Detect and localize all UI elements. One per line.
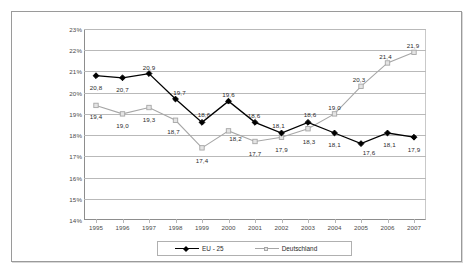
data-point-label: 19,6 bbox=[222, 91, 234, 98]
data-point-marker bbox=[359, 84, 363, 88]
data-point-label: 19,0 bbox=[116, 122, 128, 129]
data-point-label: 20,7 bbox=[116, 86, 128, 93]
data-point-label: 17,9 bbox=[408, 146, 420, 153]
legend-label: Deutschland bbox=[282, 245, 318, 252]
y-axis-tick-label: 23% bbox=[40, 26, 82, 33]
data-point-label: 18,7 bbox=[167, 128, 179, 135]
data-point-label: 19,3 bbox=[143, 116, 155, 123]
y-axis-tick-label: 20% bbox=[40, 89, 82, 96]
data-point-label: 18,1 bbox=[328, 141, 340, 148]
data-point-label: 18,1 bbox=[272, 122, 284, 129]
y-axis-tick-label: 16% bbox=[40, 174, 82, 181]
y-axis-tick-label: 17% bbox=[40, 153, 82, 160]
y-axis-tick-label: 14% bbox=[40, 217, 82, 224]
series-lines bbox=[84, 29, 426, 220]
data-point-marker bbox=[94, 103, 98, 107]
data-point-marker bbox=[332, 112, 336, 116]
data-point-label: 20,3 bbox=[353, 76, 365, 83]
data-point-marker bbox=[411, 134, 417, 140]
data-point-marker bbox=[385, 61, 389, 65]
data-point-label: 18,6 bbox=[248, 112, 260, 119]
data-point-label: 19,4 bbox=[90, 113, 102, 120]
y-axis-tick-label: 18% bbox=[40, 132, 82, 139]
data-point-label: 19,7 bbox=[173, 89, 185, 96]
legend-square-marker-icon bbox=[255, 244, 279, 253]
chart-legend: EU - 25Deutschland bbox=[157, 241, 352, 256]
data-point-marker bbox=[93, 73, 99, 79]
data-point-label: 19,0 bbox=[328, 104, 340, 111]
data-point-marker bbox=[358, 141, 364, 147]
data-point-marker bbox=[200, 146, 204, 150]
data-point-label: 17,9 bbox=[275, 146, 287, 153]
data-point-label: 18,6 bbox=[198, 111, 210, 118]
data-point-label: 18,6 bbox=[304, 111, 316, 118]
data-point-marker bbox=[226, 129, 230, 133]
data-point-label: 18,2 bbox=[229, 135, 241, 142]
data-point-marker bbox=[147, 105, 151, 109]
y-axis-tick-label: 21% bbox=[40, 68, 82, 75]
data-point-marker bbox=[332, 130, 338, 136]
data-point-label: 21,9 bbox=[407, 42, 419, 49]
y-axis-tick-label: 22% bbox=[40, 47, 82, 54]
data-point-marker bbox=[412, 50, 416, 54]
plot-area: 23%22%21%20%19%18%17%16%15%14% 199519961… bbox=[84, 29, 426, 220]
data-point-label: 17,7 bbox=[249, 150, 261, 157]
y-axis-tick-label: 19% bbox=[40, 110, 82, 117]
data-point-label: 21,4 bbox=[379, 53, 391, 60]
data-point-marker bbox=[253, 139, 257, 143]
x-axis-tick-label: 2007 bbox=[397, 224, 431, 231]
legend-entry[interactable]: EU - 25 bbox=[175, 244, 224, 253]
legend-marker bbox=[264, 247, 268, 251]
legend-label: EU - 25 bbox=[202, 245, 224, 252]
legend-entry[interactable]: Deutschland bbox=[255, 244, 318, 253]
legend-marker bbox=[183, 246, 189, 252]
chart-frame: 23%22%21%20%19%18%17%16%15%14% 199519961… bbox=[11, 11, 462, 262]
legend-diamond-marker-icon bbox=[175, 244, 199, 253]
data-point-label: 20,9 bbox=[143, 64, 155, 71]
data-point-marker bbox=[306, 127, 310, 131]
data-point-marker bbox=[385, 130, 391, 136]
data-point-label: 18,1 bbox=[383, 141, 395, 148]
data-point-marker bbox=[173, 118, 177, 122]
y-axis-tick-label: 15% bbox=[40, 195, 82, 202]
data-point-label: 20,8 bbox=[90, 84, 102, 91]
data-point-label: 18,3 bbox=[303, 138, 315, 145]
data-point-marker bbox=[305, 119, 311, 125]
data-point-label: 17,6 bbox=[363, 149, 375, 156]
data-point-marker bbox=[120, 112, 124, 116]
data-point-label: 17,4 bbox=[196, 157, 208, 164]
data-point-marker bbox=[120, 75, 126, 81]
